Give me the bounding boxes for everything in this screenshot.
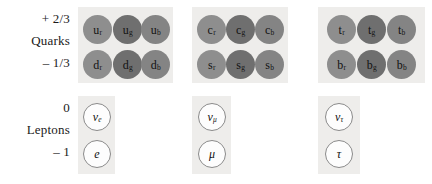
particle-symbol: ν [207,111,212,123]
particle-symbol: d [93,59,99,71]
quark-family-label: Quarks [31,34,70,48]
quark-u-b: ub [141,15,170,44]
quark-c-g: cg [226,15,255,44]
particle-symbol: s [208,59,213,71]
quark-u-g: ug [113,15,142,44]
quark-t-r: tr [327,15,356,44]
particle-symbol: e [94,148,99,160]
quark-b-b: bb [387,50,416,79]
particle-subscript: b [157,64,161,72]
particle-symbol: ν [335,111,340,123]
standard-model-particle-figure: + 2/3 Quarks – 1/3 0 Leptons – 1 ur ug u… [0,0,432,184]
particle-symbol: ν [93,111,98,123]
lepton-charge-top-label: 0 [63,101,70,115]
quark-charge-bottom-label: – 1/3 [43,56,70,70]
particle-subscript: b [271,29,275,37]
particle-symbol: u [93,24,99,36]
particle-subscript: r [213,64,216,72]
particle-subscript: μ [213,116,217,124]
particle-subscript: g [372,29,376,37]
particle-subscript: e [98,116,101,124]
quark-s-b: sb [255,50,284,79]
particle-symbol: d [123,59,129,71]
quark-generation-1-panel: ur ug ub dr dg db [78,7,173,83]
lepton-muon: μ [198,140,226,168]
lepton-nu-tau: ντ [325,103,353,131]
particle-symbol: c [236,24,241,36]
particle-subscript: g [129,29,133,37]
quark-row-labels: + 2/3 Quarks – 1/3 [0,8,70,82]
lepton-nu-e: νe [83,103,111,131]
particle-symbol: μ [209,148,215,160]
particle-symbol: b [337,59,343,71]
quark-u-r: ur [83,15,112,44]
quark-generation-2-panel: cr cg cb sr sg sb [192,7,288,83]
quark-s-r: sr [197,50,226,79]
particle-subscript: b [157,29,161,37]
particle-symbol: u [151,24,157,36]
particle-symbol: c [208,24,213,36]
particle-subscript: r [100,29,103,37]
quark-d-b: db [141,50,170,79]
quark-generation-3-panel: tr tg tb br bg bb [318,7,425,83]
particle-subscript: g [241,64,245,72]
quark-b-r: br [327,50,356,79]
particle-symbol: d [151,59,157,71]
particle-symbol: τ [337,148,341,160]
quark-d-r: dr [83,50,112,79]
particle-subscript: τ [341,116,344,124]
quark-s-g: sg [226,50,255,79]
particle-subscript: b [270,64,274,72]
lepton-nu-mu: νμ [198,103,226,131]
particle-symbol: c [265,24,270,36]
particle-symbol: s [236,59,241,71]
quark-c-r: cr [197,15,226,44]
particle-symbol: b [367,59,373,71]
quark-charge-top-label: + 2/3 [42,12,70,26]
lepton-generation-2-panel: νμ μ [192,96,231,174]
particle-symbol: u [123,24,129,36]
particle-subscript: g [129,64,133,72]
lepton-electron: e [83,140,111,168]
particle-subscript: r [344,64,347,72]
particle-subscript: r [100,64,103,72]
particle-symbol: s [265,59,270,71]
particle-subscript: r [342,29,345,37]
lepton-generation-1-panel: νe e [78,96,115,174]
particle-subscript: b [402,29,406,37]
quark-c-b: cb [255,15,284,44]
lepton-family-label: Leptons [27,123,70,137]
quark-t-b: tb [387,15,416,44]
quark-d-g: dg [113,50,142,79]
particle-symbol: b [397,59,403,71]
particle-subscript: g [242,29,246,37]
lepton-generation-3-panel: ντ τ [318,96,360,174]
particle-subscript: r [213,29,216,37]
lepton-row-labels: 0 Leptons – 1 [0,97,70,171]
quark-b-g: bg [357,50,386,79]
quark-t-g: tg [357,15,386,44]
particle-subscript: g [373,64,377,72]
particle-subscript: b [403,64,407,72]
lepton-charge-bottom-label: – 1 [53,145,70,159]
lepton-tau: τ [325,140,353,168]
